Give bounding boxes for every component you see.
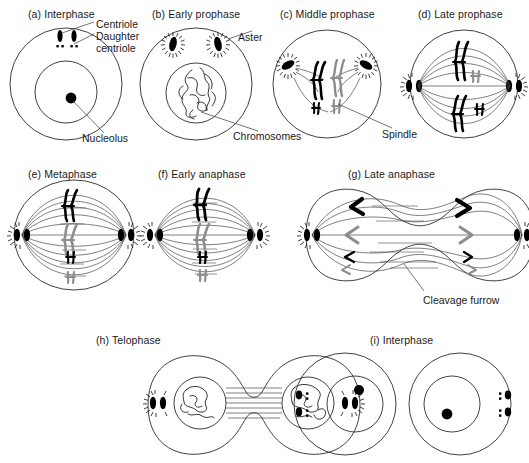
aster-c-left bbox=[276, 53, 300, 79]
leader-aster bbox=[228, 31, 252, 39]
chromosome-d-2 bbox=[471, 71, 480, 82]
centriole-pair-i-right bbox=[499, 391, 511, 417]
pole-g-left bbox=[297, 222, 320, 249]
chromosome-c-2 bbox=[331, 60, 344, 96]
chromosome-d-3 bbox=[452, 96, 466, 131]
chromosome-d-1 bbox=[453, 42, 468, 80]
chromosome-c-4 bbox=[332, 100, 341, 113]
pole-h-left bbox=[143, 390, 167, 417]
aster-b-right bbox=[206, 32, 230, 58]
nucleus-i-right bbox=[424, 376, 480, 432]
panel-h-telophase bbox=[143, 356, 365, 455]
centriole-pair-i-left bbox=[296, 391, 309, 417]
panel-g-late-anaphase bbox=[297, 189, 529, 291]
chromosome-e-3 bbox=[66, 252, 75, 263]
chromosome-c-1 bbox=[311, 62, 325, 99]
chromosome-f-1 bbox=[194, 189, 209, 220]
cell-outline-h bbox=[148, 356, 360, 455]
chromosome-e-1 bbox=[62, 190, 77, 221]
mitosis-figure: (a) Interphase (b) Early prophase (c) Mi… bbox=[0, 0, 529, 463]
centriole-pair-a bbox=[56, 30, 77, 47]
panel-i-interphase bbox=[294, 353, 511, 455]
chromosome-e-2 bbox=[62, 224, 77, 256]
panel-c-middle-prophase bbox=[273, 30, 392, 138]
panel-a-interphase bbox=[10, 22, 122, 140]
nucleolus-dot-a bbox=[66, 93, 77, 104]
chromosome-c-3 bbox=[312, 103, 320, 114]
leader-daughter bbox=[74, 34, 94, 44]
chromosome-f-2 bbox=[194, 224, 209, 255]
mitosis-illustration bbox=[0, 0, 529, 463]
leader-centriole bbox=[62, 22, 94, 33]
panel-b-early-prophase bbox=[140, 28, 258, 140]
chromosome-f-3 bbox=[198, 252, 207, 263]
leader-chromosomes bbox=[201, 112, 258, 131]
nucleolus-dot-i-right bbox=[442, 409, 453, 420]
aster-b-left bbox=[161, 32, 185, 58]
daughter-nucleus-h-left bbox=[174, 377, 226, 429]
chromosome-e-4 bbox=[66, 272, 75, 283]
spindle-fibers-c bbox=[294, 68, 360, 112]
aster-c-right bbox=[354, 53, 378, 79]
interzonal-fibers-h bbox=[226, 388, 282, 418]
leader-nucleolus bbox=[73, 101, 104, 133]
panel-d-late-prophase bbox=[400, 30, 528, 138]
nucleolus-dot-i-left bbox=[354, 385, 364, 395]
chromatin-threads-b bbox=[179, 68, 216, 119]
panel-e-metaphase bbox=[7, 180, 141, 290]
chromatin-h-left bbox=[181, 386, 214, 418]
leader-spindle bbox=[338, 104, 392, 128]
panel-f-early-anaphase bbox=[140, 189, 270, 281]
